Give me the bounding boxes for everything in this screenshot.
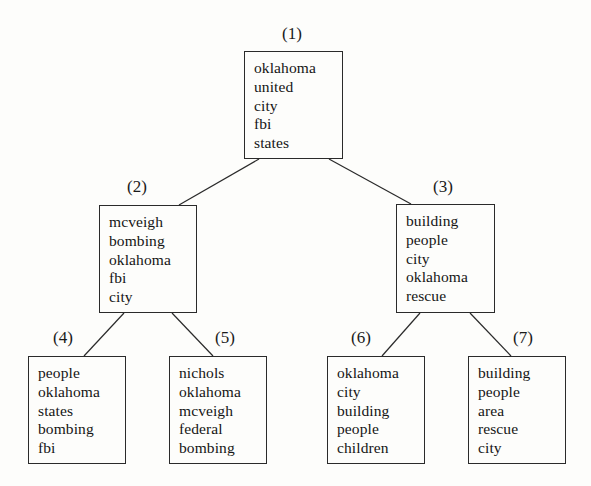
cluster-node-5: nichols oklahoma mcveigh federal bombing [169,356,267,464]
term-item: building [478,364,565,383]
term-item: oklahoma [406,268,494,287]
node-label-1: (1) [282,25,302,42]
term-item: area [478,402,565,421]
term-item: states [38,402,125,421]
term-item: oklahoma [179,383,266,402]
node-label-2: (2) [127,178,147,195]
term-item: people [337,420,424,439]
term-item: fbi [38,439,125,458]
term-item: oklahoma [337,364,424,383]
term-item: city [406,250,494,269]
cluster-tree-figure: (1) oklahoma united city fbi states (2) … [0,0,591,486]
term-item: fbi [109,269,196,288]
term-item: rescue [406,287,494,306]
cluster-node-2: mcveigh bombing oklahoma fbi city [99,205,197,313]
tree-edge-3-7 [470,313,511,356]
term-item: building [337,402,424,421]
tree-edge-2-4 [84,313,124,356]
term-item: people [406,231,494,250]
term-item: states [254,134,342,153]
cluster-node-6: oklahoma city building people children [327,356,425,464]
term-list-5: nichols oklahoma mcveigh federal bombing [179,364,266,458]
term-list-7: building people area rescue city [478,364,565,458]
term-list-1: oklahoma united city fbi states [254,59,342,153]
term-item: people [38,364,125,383]
term-item: bombing [179,439,266,458]
term-item: mcveigh [109,213,196,232]
term-list-6: oklahoma city building people children [337,364,424,458]
term-item: children [337,439,424,458]
term-list-4: people oklahoma states bombing fbi [38,364,125,458]
term-item: oklahoma [109,251,196,270]
term-item: people [478,383,565,402]
term-item: city [254,97,342,116]
cluster-node-7: building people area rescue city [468,356,566,464]
term-list-2: mcveigh bombing oklahoma fbi city [109,213,196,307]
cluster-node-4: people oklahoma states bombing fbi [28,356,126,464]
term-item: bombing [38,420,125,439]
term-item: federal [179,420,266,439]
cluster-node-3: building people city oklahoma rescue [396,204,495,313]
node-label-4: (4) [53,329,73,346]
node-label-7: (7) [513,329,533,346]
term-item: building [406,212,494,231]
node-label-5: (5) [215,329,235,346]
term-item: mcveigh [179,402,266,421]
tree-edge-2-5 [172,313,213,356]
node-label-6: (6) [351,329,371,346]
cluster-node-1: oklahoma united city fbi states [244,51,343,159]
tree-edge-1-2 [179,159,259,205]
term-list-3: building people city oklahoma rescue [406,212,494,306]
term-item: bombing [109,232,196,251]
term-item: oklahoma [254,59,342,78]
term-item: city [478,439,565,458]
tree-edge-3-6 [382,313,420,356]
term-item: rescue [478,420,565,439]
term-item: oklahoma [38,383,125,402]
term-item: city [337,383,424,402]
term-item: united [254,78,342,97]
term-item: fbi [254,115,342,134]
term-item: city [109,288,196,307]
node-label-3: (3) [433,178,453,195]
tree-edge-1-3 [329,159,411,204]
term-item: nichols [179,364,266,383]
